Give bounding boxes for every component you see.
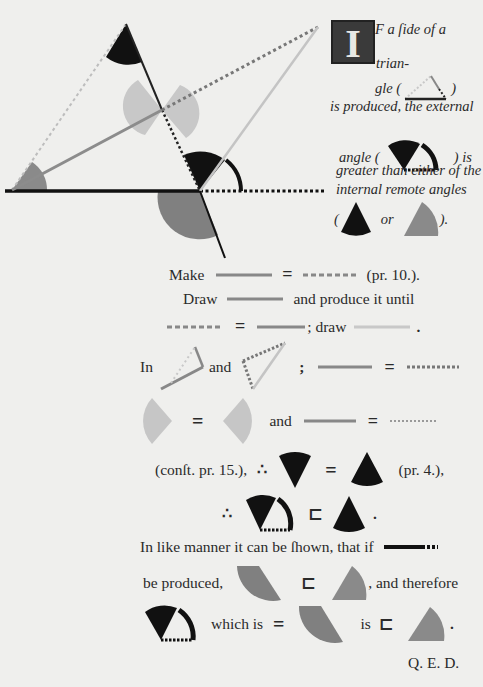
- gray-line-icon: [225, 295, 285, 303]
- proof-line-make: Make = (pr. 10.).: [169, 264, 420, 285]
- gray-sector-icon: [297, 604, 349, 644]
- gray-sector-icon: [235, 564, 287, 602]
- external-angle-icon: [143, 604, 199, 644]
- black-angle-icon: [339, 200, 373, 238]
- intro-line-2: trian-: [376, 54, 409, 73]
- intro-line-1: F a ſide of a: [375, 20, 446, 39]
- qed: Q. E. D.: [408, 654, 459, 672]
- light-line-icon: [352, 323, 412, 331]
- gray-line-icon: [316, 363, 374, 371]
- dotted-line-icon: [405, 363, 461, 371]
- proof-line-like-manner: In like manner it can be ſhown, that if: [140, 538, 440, 556]
- line-ef-dotted: [162, 27, 318, 110]
- fine-dotted-line-icon: [388, 417, 438, 425]
- triangle-diagram: [0, 0, 330, 262]
- gray-line-icon: [214, 271, 274, 279]
- proof-line-therefore: ∴ ⊏ .: [222, 494, 377, 534]
- external-angle-arc: [226, 160, 241, 191]
- black-angle-up-icon: [331, 494, 367, 534]
- gray-line-icon: [255, 323, 307, 331]
- black-angle-up-icon: [349, 450, 385, 490]
- light-angle-icon-left: [140, 396, 174, 446]
- line-be-gray: [12, 110, 162, 190]
- proof-line-const: (conſt. pr. 15.), ∴ = (pr. 4.),: [155, 450, 444, 490]
- triangle-part-icon-2: [241, 341, 289, 393]
- proof-line-angles-equal: = and =: [140, 396, 438, 446]
- intro-line-7: internal remote angles: [336, 180, 467, 199]
- proof-line-equal-draw: = ; draw .: [165, 316, 420, 337]
- intro-line-8: ( or ).: [334, 200, 448, 238]
- dashed-line-icon: [301, 271, 359, 279]
- gray-angle-icon: [406, 605, 446, 643]
- proof-line-produced: be produced, ⊏ , and therefore: [143, 564, 458, 602]
- black-angle-down-icon: [277, 450, 313, 490]
- decorated-initial: I: [331, 20, 375, 64]
- external-angle-icon: [244, 494, 300, 534]
- intro-line-6: greater than either of the: [336, 161, 481, 180]
- proof-line-in: In and ; =: [140, 341, 461, 393]
- triangle-part-icon-1: [157, 341, 207, 393]
- gray-angle-icon: [330, 564, 368, 602]
- gray-line-icon: [302, 417, 358, 425]
- black-line-icon: [382, 543, 440, 551]
- dashed-line-icon: [165, 323, 225, 331]
- gray-angle-icon: [402, 200, 440, 238]
- side-ab-dotted: [12, 24, 126, 190]
- proof-line-draw: Draw and produce it until: [183, 290, 414, 308]
- proof-line-which-is: which is = is ⊏ .: [143, 604, 454, 644]
- line-cf-light: [200, 27, 318, 191]
- light-angle-icon-right: [221, 396, 257, 446]
- intro-line-4: is produced, the external: [330, 97, 474, 116]
